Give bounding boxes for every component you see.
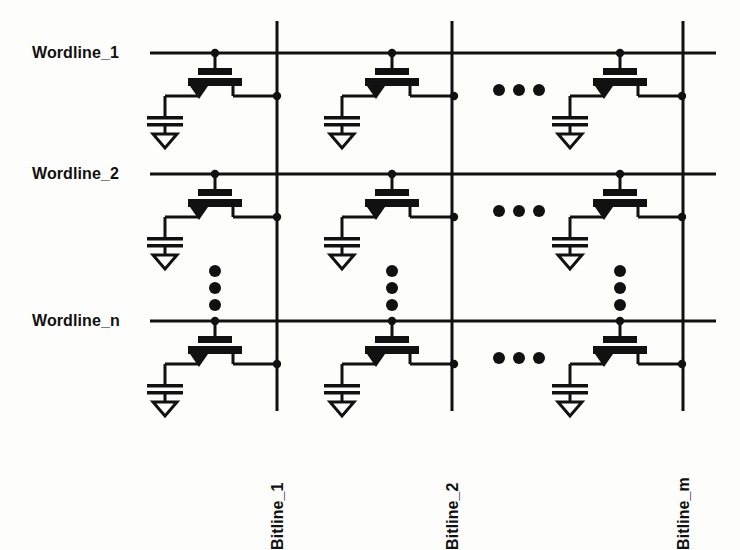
row-ellipsis-col1 xyxy=(209,265,221,311)
memory-cell-rncm xyxy=(552,317,686,416)
column-ellipsis-row2 xyxy=(493,205,545,217)
memory-cell-r1cm xyxy=(552,49,686,148)
column-ellipsis-row1 xyxy=(493,84,545,96)
memory-cell-r1c1 xyxy=(147,49,281,148)
memory-cell-r2c1 xyxy=(147,170,281,269)
bitline-m-label: Bitline_m xyxy=(675,477,693,550)
wordline-group xyxy=(150,53,716,321)
wordline-2-label: Wordline_2 xyxy=(32,165,119,183)
row-ellipsis-colm xyxy=(614,265,626,311)
bitline-2-label: Bitline_2 xyxy=(444,482,462,550)
wordline-n-label: Wordline_n xyxy=(32,312,120,330)
wordline-1-label: Wordline_1 xyxy=(32,44,119,62)
column-ellipsis-rown xyxy=(493,352,545,364)
bitline-1-label: Bitline_1 xyxy=(269,482,287,550)
row-ellipsis-col2 xyxy=(386,265,398,311)
memory-cell-r1c2 xyxy=(324,49,458,148)
memory-cell-rnc2 xyxy=(324,317,458,416)
memory-cell-r2c2 xyxy=(324,170,458,269)
memory-cell-rnc1 xyxy=(147,317,281,416)
memory-cell-r2cm xyxy=(552,170,686,269)
